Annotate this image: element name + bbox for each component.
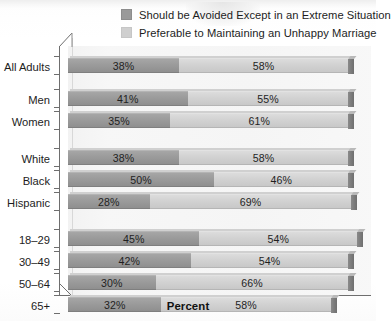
category-label: White [21,152,50,164]
category-label: 50–64 [19,277,50,289]
category-label: Men [28,93,50,105]
bar-end-cap [351,192,357,210]
bar-value-label: 61% [248,115,270,127]
bar-row: White38%58% [68,150,371,167]
bar-segment-avoided: 38% [68,58,179,73]
bar-segment-preferable: 46% [214,172,348,187]
y-axis-tick [54,229,60,230]
bar-segment-avoided: 30% [68,275,156,290]
legend-label-preferable: Preferable to Maintaining an Unhappy Mar… [139,27,377,39]
bar-segment-preferable: 58% [179,150,348,165]
bar-value-label: 69% [240,196,262,208]
legend-item-avoided: Should be Avoided Except in an Extreme S… [121,7,391,22]
bar-end-cap [348,170,354,188]
y-axis-tick [54,188,60,189]
bar-segment-preferable: 66% [156,275,349,290]
x-axis-title: Percent [0,300,376,312]
bar-row: 50–6430%66% [68,275,371,292]
stacked-bar: 38%58% [68,150,348,165]
y-axis-tick [54,107,60,108]
category-label: Black [23,174,50,186]
bar-value-label: 46% [270,174,292,186]
stacked-bar: 35%61% [68,113,348,128]
y-axis-tick [54,251,60,252]
y-axis-tick [54,56,60,57]
bar-value-label: 28% [98,196,120,208]
bar-value-label: 50% [130,174,152,186]
category-label: Hispanic [7,196,50,208]
bar-segment-preferable: 61% [170,113,348,128]
y-axis-tick [54,111,60,112]
y-axis-tick [54,247,60,248]
bar-value-label: 38% [113,60,135,72]
bar-end-cap [348,273,354,291]
category-label: All Adults [4,60,50,72]
stacked-bar: 42%54% [68,253,348,268]
bar-row: 30–4942%54% [68,253,371,270]
stacked-bar: 38%58% [68,58,348,73]
y-axis-line [59,46,60,296]
bar-segment-avoided: 42% [68,253,191,268]
y-axis-tick [54,269,60,270]
stacked-bar: 28%69% [68,194,351,209]
bar-row: 18–2945%54% [68,231,371,248]
plot-area: All Adults38%58%Men41%55%Women35%61%Whit… [68,46,371,296]
bar-segment-preferable: 55% [188,91,349,106]
bar-row: Black50%46% [68,172,371,189]
bar-segment-preferable: 54% [191,253,349,268]
bar-segment-avoided: 28% [68,194,150,209]
y-axis-tick [54,291,60,292]
chart-legend: Should be Avoided Except in an Extreme S… [121,7,391,40]
bar-value-label: 54% [267,233,289,245]
y-axis-tick [54,89,60,90]
category-label: 30–49 [19,255,50,267]
bar-segment-avoided: 41% [68,91,188,106]
y-axis-tick [54,210,60,211]
stacked-bar: 30%66% [68,275,348,290]
axis-depth-top-icon [59,33,81,47]
bar-row: All Adults38%58% [68,58,371,75]
bar-value-label: 58% [235,299,257,311]
bar-end-cap [348,111,354,129]
y-axis-tick [54,74,60,75]
bar-value-label: 55% [257,93,279,105]
bar-segment-avoided: 35% [68,113,170,128]
bar-value-label: 42% [119,255,141,267]
bar-value-label: 32% [104,299,126,311]
y-axis-tick [54,295,60,296]
y-axis-tick [54,313,60,314]
bar-value-label: 41% [117,93,139,105]
bar-row: Women35%61% [68,113,371,130]
y-axis-tick [54,170,60,171]
bar-segment-preferable: 54% [199,231,357,246]
bar-segment-avoided: 50% [68,172,214,187]
stacked-bar: 41%55% [68,91,348,106]
bar-row: Hispanic28%69% [68,194,371,211]
bar-end-cap [348,89,354,107]
bar-row: Men41%55% [68,91,371,108]
bar-segment-preferable: 58% [179,58,348,73]
category-label: 18–29 [19,233,50,245]
bar-value-label: 66% [241,277,263,289]
bar-end-cap [348,251,354,269]
y-axis-tick [54,273,60,274]
bar-segment-preferable: 69% [150,194,351,209]
bar-value-label: 58% [253,60,275,72]
legend-swatch-light-icon [121,27,132,38]
category-label: Women [12,115,50,127]
stacked-bar: 50%46% [68,172,348,187]
bar-value-label: 30% [101,277,123,289]
bar-value-label: 54% [259,255,281,267]
y-axis-tick [54,166,60,167]
legend-swatch-dark-icon [121,9,132,20]
bar-value-label: 35% [108,115,130,127]
bar-value-label: 45% [123,233,145,245]
legend-label-avoided: Should be Avoided Except in an Extreme S… [139,9,391,21]
y-axis-tick [54,129,60,130]
bar-segment-avoided: 45% [68,231,199,246]
bar-value-label: 38% [113,152,135,164]
bar-end-cap [348,148,354,166]
y-axis-tick [54,192,60,193]
bar-end-cap [357,229,363,247]
